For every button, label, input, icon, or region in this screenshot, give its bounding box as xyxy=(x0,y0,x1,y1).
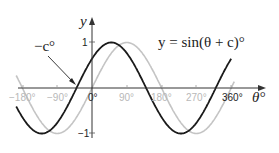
x-tick-label: −180° xyxy=(9,92,36,103)
x-tick-label: 90° xyxy=(119,92,134,103)
y-tick-label: −1 xyxy=(78,128,90,139)
y-axis-label: y xyxy=(78,13,87,29)
x-tick-label: 180° xyxy=(151,92,172,103)
x-tick-label: 0° xyxy=(88,92,98,103)
x-axis-label: θ° xyxy=(252,89,265,105)
annotation-arrow xyxy=(48,56,74,83)
sine-chart: −180° −90° 0° 90° 180° 270° 360° 1 −1 y … xyxy=(0,0,279,153)
equation-label: y = sin(θ + c)° xyxy=(158,34,245,51)
x-tick-label: −90° xyxy=(47,92,68,103)
x-tick-label: 270° xyxy=(186,92,207,103)
x-tick-label: 360° xyxy=(222,92,243,103)
y-axis-arrow-icon xyxy=(89,17,95,25)
y-tick-label: 1 xyxy=(82,37,88,48)
annotation-label: −c° xyxy=(34,38,55,54)
